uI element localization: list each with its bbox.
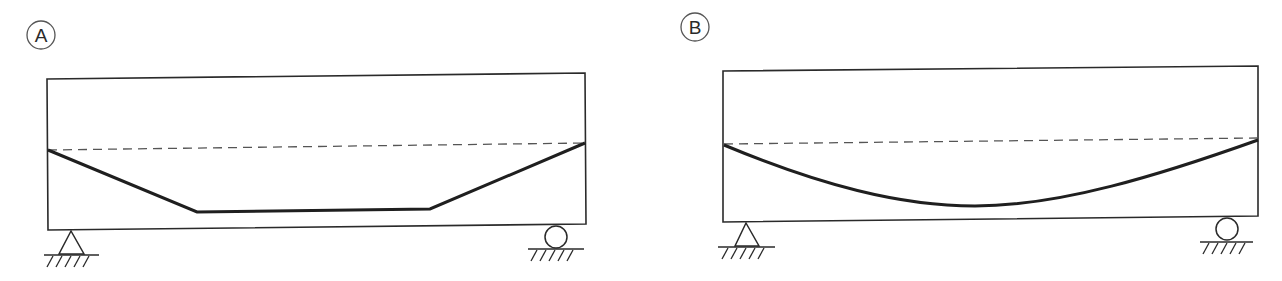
reference-dashed-line (48, 143, 585, 150)
profile-line-parabolic (724, 140, 1258, 206)
profile-line-trapezoidal (48, 143, 585, 212)
panel-label-text: A (35, 25, 48, 46)
panel-a: A (27, 21, 586, 267)
panel-label-a: A (27, 21, 55, 49)
beam-diagram: A B (0, 0, 1282, 281)
beam-outline (47, 73, 586, 230)
panel-b: B (681, 13, 1258, 259)
beam-outline (723, 66, 1258, 222)
reference-dashed-line (724, 138, 1258, 144)
roller-support-icon (528, 226, 584, 261)
roller-support-icon (1200, 218, 1253, 254)
panel-label-text: B (689, 17, 702, 38)
panel-label-b: B (681, 13, 709, 41)
pinned-support-icon (44, 231, 99, 267)
pinned-support-icon (718, 223, 775, 259)
